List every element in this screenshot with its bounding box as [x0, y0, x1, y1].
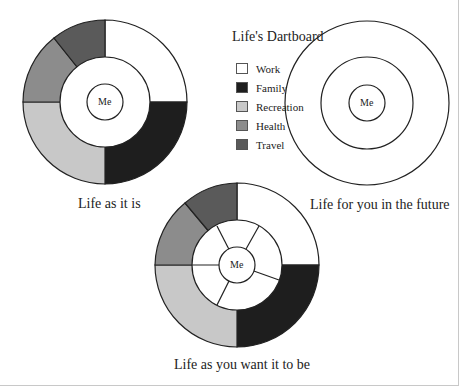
- swatch-icon: [236, 120, 248, 131]
- caption-future: Life for you in the future: [310, 197, 450, 213]
- me-label-desired: Me: [230, 259, 243, 270]
- legend-item-recreation: Recreation: [236, 97, 304, 116]
- diagram-title: Life's Dartboard: [232, 29, 324, 45]
- legend-item-travel: Travel: [236, 135, 304, 154]
- legend-item-work: Work: [236, 59, 304, 78]
- swatch-icon: [236, 101, 248, 112]
- swatch-icon: [236, 82, 248, 93]
- legend-item-health: Health: [236, 116, 304, 135]
- swatch-icon: [236, 63, 248, 74]
- swatch-icon: [236, 139, 248, 150]
- legend: Work Family Recreation Health Travel: [236, 59, 304, 154]
- caption-current: Life as it is: [78, 196, 141, 212]
- me-label-current: Me: [98, 96, 111, 107]
- caption-desired: Life as you want it to be: [174, 357, 310, 373]
- me-label-future: Me: [360, 97, 373, 108]
- legend-item-family: Family: [236, 78, 304, 97]
- dartboards-canvas: [0, 0, 462, 388]
